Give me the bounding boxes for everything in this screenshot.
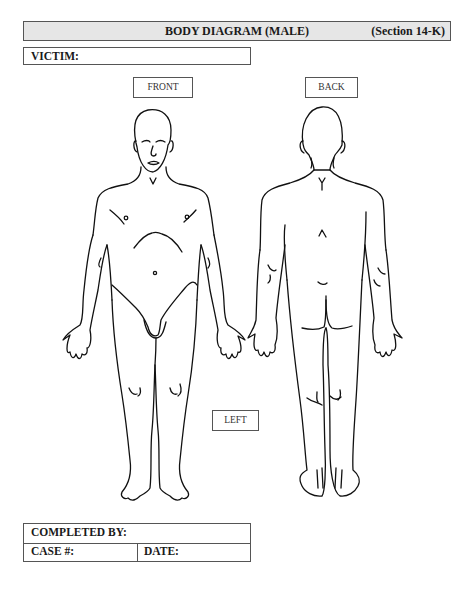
case-number-field[interactable]: CASE #: (24, 543, 138, 562)
body-diagram (0, 0, 453, 599)
back-body-figure (248, 107, 402, 496)
completed-by-field[interactable]: COMPLETED BY: (24, 524, 250, 544)
date-label: DATE: (144, 545, 179, 557)
completed-by-label: COMPLETED BY: (31, 526, 127, 538)
front-body-figure (63, 110, 245, 500)
case-number-label: CASE #: (31, 545, 74, 557)
completion-block: COMPLETED BY: CASE #: DATE: (23, 523, 251, 562)
date-field[interactable]: DATE: (137, 543, 251, 562)
